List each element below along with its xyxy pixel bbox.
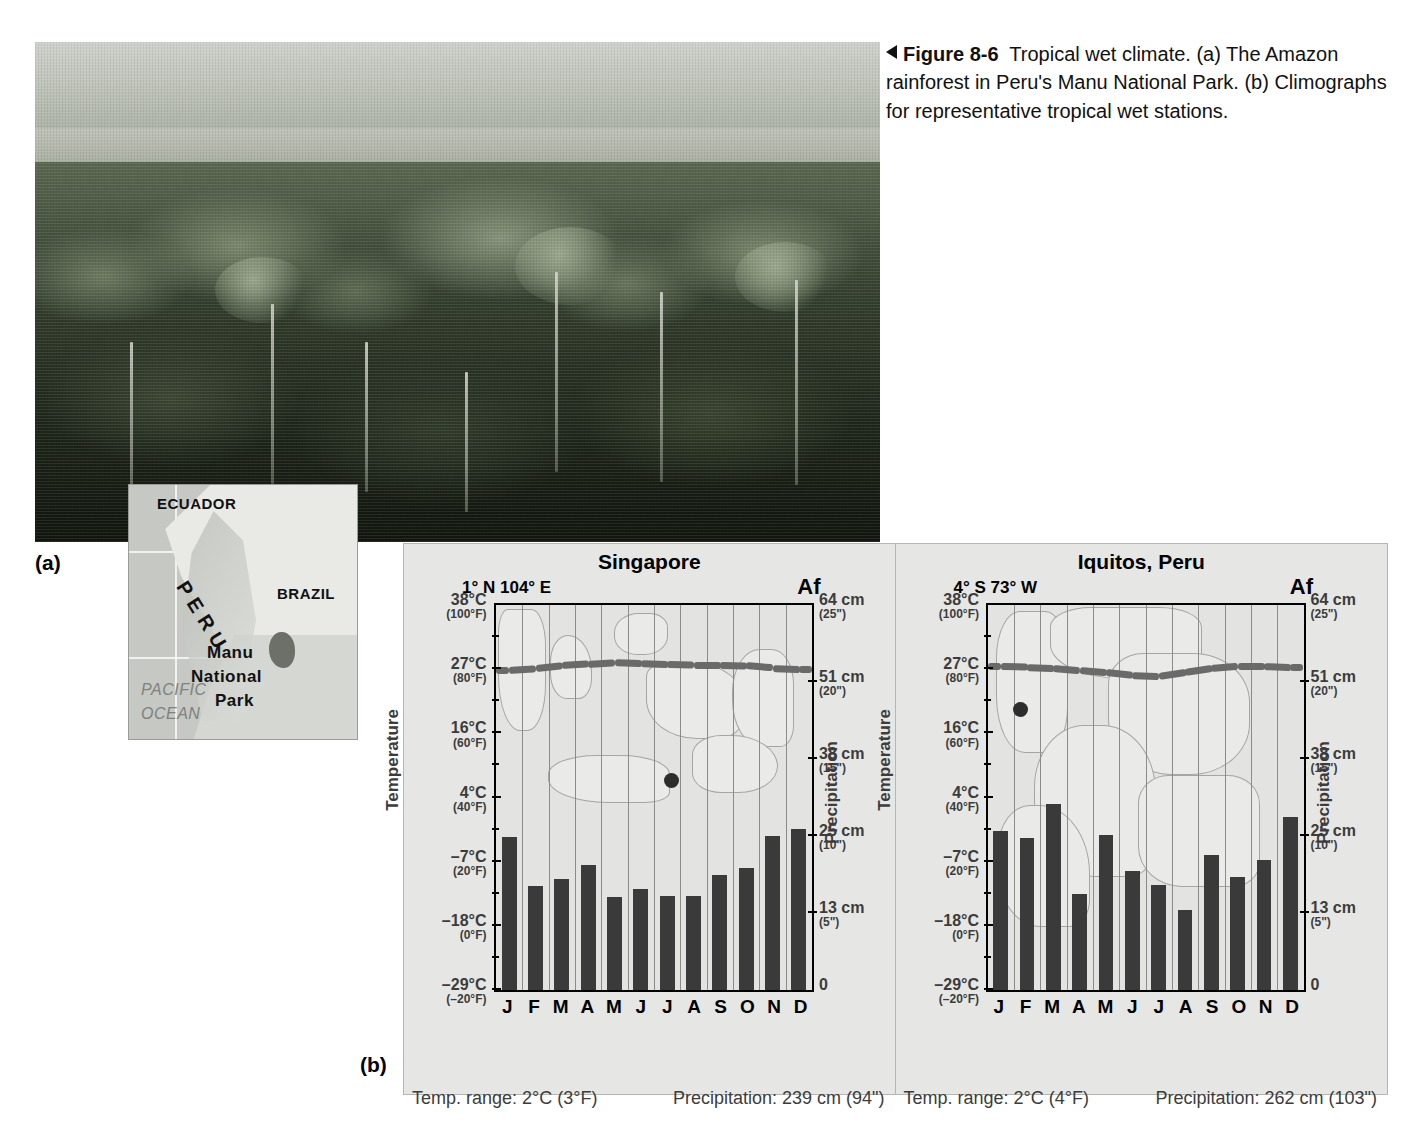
temperature-curve-segment [720,662,747,670]
precip-total-text: Precipitation: 262 cm (103") [1156,1088,1378,1109]
precipitation-bar [1046,804,1061,990]
temperature-tick [984,988,993,990]
station-title: Iquitos, Peru [896,550,1388,574]
month-label: J [986,996,1013,1018]
month-axis: JFMAMJJASOND [494,996,814,1018]
precipitation-tick-label: 13 cm(5") [1311,900,1356,929]
figure-label-a: (a) [35,551,61,575]
month-label: S [707,996,734,1018]
precipitation-bar [1283,817,1298,990]
month-gridline [1198,605,1199,990]
station-title: Singapore [404,550,895,574]
precipitation-bar [686,896,701,990]
temperature-minor-tick [984,892,991,894]
month-label: D [1279,996,1306,1018]
precipitation-tick-label: 64 cm(25") [819,592,864,621]
precipitation-tick [808,834,817,836]
precipitation-tick [1300,757,1309,759]
temperature-curve-segment [799,666,812,673]
temperature-tick-label: 27°C(80°F) [451,656,487,685]
month-label: D [787,996,814,1018]
temperature-tick [492,860,501,862]
climograph-iquitos: Iquitos, Peru 4° S 73° W Af JFMAMJJASOND… [896,544,1388,1094]
temperature-tick-label: –18°C(0°F) [934,913,979,942]
month-axis: JFMAMJJASOND [986,996,1306,1018]
month-label: A [681,996,708,1018]
temperature-minor-tick [984,956,991,958]
temperature-curve-segment [772,665,800,673]
temperature-tick [492,796,501,798]
precipitation-bar [1151,885,1166,990]
month-label: S [1199,996,1226,1018]
temperature-tick-label: 16°C(60°F) [451,720,487,749]
precipitation-tick [808,757,817,759]
month-gridline [1172,605,1173,990]
temperature-tick-label: –18°C(0°F) [442,913,487,942]
temperature-minor-tick [984,828,991,830]
temperature-tick-label: –7°C(20°F) [943,849,979,878]
precipitation-tick [808,680,817,682]
caption-triangle-icon [886,45,897,59]
temperature-minor-tick [492,763,499,765]
temperature-minor-tick [984,699,991,701]
temperature-tick [492,988,501,990]
month-gridline [786,605,787,990]
temperature-curve-segment [1001,663,1028,671]
temperature-curve-segment [667,661,694,669]
precipitation-bar [1020,838,1035,990]
temperature-axis-title: Temperature [874,709,894,811]
temperature-tick-label: 4°C(40°F) [946,785,979,814]
temperature-tick-label: 27°C(80°F) [943,656,979,685]
temperature-tick-label: –7°C(20°F) [451,849,487,878]
month-label: J [627,996,654,1018]
map-coastline [614,613,668,655]
month-label: O [1226,996,1253,1018]
temp-range-text: Temp. range: 2°C (3°F) [412,1088,597,1109]
map-label-ecuador: ECUADOR [157,495,236,512]
temperature-curve-segment [694,662,721,669]
month-label: M [1039,996,1066,1018]
temperature-minor-tick [492,828,499,830]
month-label: A [574,996,601,1018]
month-gridline [1093,605,1094,990]
map-label-brazil: BRAZIL [277,585,335,602]
precipitation-tick-label: 51 cm(20") [1311,669,1356,698]
precipitation-axis-title: Precipitation [1314,741,1334,844]
temperature-tick [984,731,993,733]
month-label: M [547,996,574,1018]
precipitation-bar [1230,877,1245,990]
precipitation-bar [1204,855,1219,990]
manu-park-area [269,632,295,668]
temperature-minor-tick [984,635,991,637]
month-gridline [1040,605,1041,990]
temperature-curve-segment [641,660,669,668]
temperature-curve-segment [588,659,616,668]
peru-inset-map: ECUADOR BRAZIL P E R U Manu National Par… [128,484,358,740]
precipitation-bar [581,865,596,990]
precipitation-bar [993,831,1008,990]
plot-area [986,603,1306,992]
month-label: J [1146,996,1173,1018]
temperature-minor-tick [492,635,499,637]
precipitation-bar [1178,910,1193,990]
precipitation-tick-label: 13 cm(5") [819,900,864,929]
station-location-dot [1013,702,1028,717]
precipitation-bar [712,875,727,991]
rainforest-photograph [35,42,880,542]
month-label: J [1119,996,1146,1018]
temperature-axis-title: Temperature [383,709,403,811]
temperature-curve-segment [1027,664,1055,672]
precipitation-bar [633,889,648,990]
temperature-curve-segment [1132,672,1160,680]
precipitation-bar [502,837,517,990]
temperature-tick [984,667,993,669]
temperature-tick [984,796,993,798]
temperature-minor-tick [492,892,499,894]
temperature-tick [492,924,501,926]
month-label: M [1092,996,1119,1018]
temperature-tick-label: 4°C(40°F) [453,785,486,814]
month-label: M [601,996,628,1018]
temperature-tick [492,667,501,669]
precipitation-bar [1099,835,1114,990]
temperature-minor-tick [492,956,499,958]
